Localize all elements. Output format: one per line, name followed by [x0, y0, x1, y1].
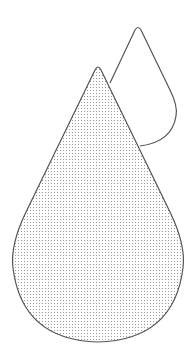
- drops-svg: [0, 0, 194, 355]
- water-drop-front-icon: [13, 67, 184, 342]
- drops-illustration: [0, 0, 194, 355]
